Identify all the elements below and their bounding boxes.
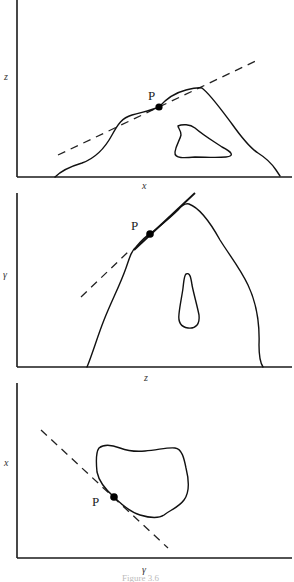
figure-canvas: z x P γ z P x γ P Figure 3.6 bbox=[0, 0, 294, 582]
figure-caption: Figure 3.6 bbox=[122, 573, 159, 582]
panel-xz: z x P bbox=[3, 0, 292, 191]
panel2-tangent-line-dashed bbox=[81, 252, 128, 297]
panel2-horizontal-axis-label: z bbox=[143, 372, 148, 383]
panel3-point-label: P bbox=[92, 494, 99, 509]
panel-yx: x γ P bbox=[3, 383, 292, 575]
panel1-horizontal-axis-label: x bbox=[141, 180, 147, 191]
panel2-vertical-axis-label: γ bbox=[3, 269, 8, 280]
panel3-point-p bbox=[110, 493, 118, 501]
panel2-point-label: P bbox=[131, 218, 138, 233]
panel3-tangent-line bbox=[41, 430, 168, 548]
panel2-outer-boundary bbox=[87, 204, 263, 367]
panel2-inner-hole bbox=[179, 274, 199, 329]
panel3-outer-boundary bbox=[96, 445, 188, 517]
panel1-outer-boundary bbox=[55, 88, 280, 177]
panel3-vertical-axis-label: x bbox=[3, 457, 9, 468]
panel1-vertical-axis-label: z bbox=[3, 71, 8, 82]
panel2-point-p bbox=[146, 230, 154, 238]
panel1-point-label: P bbox=[148, 88, 155, 103]
panel1-inner-hole bbox=[175, 125, 231, 158]
panel-zy: γ z P bbox=[3, 193, 292, 383]
panel1-point-p bbox=[155, 103, 162, 110]
